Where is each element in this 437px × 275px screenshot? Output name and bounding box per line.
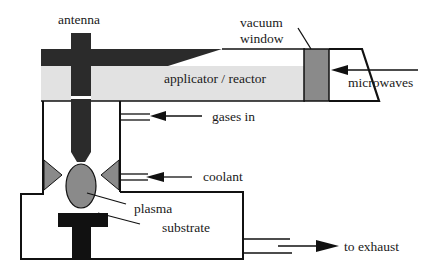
coolant-block-right <box>101 160 119 190</box>
gases-arrow-head <box>150 111 166 121</box>
applicator-label: applicator / reactor <box>164 72 266 86</box>
substrate-plate <box>58 213 108 227</box>
plasma-ball <box>66 164 96 208</box>
antenna-upper <box>71 33 91 96</box>
microwaves-label: microwaves <box>348 76 413 90</box>
substrate-stem <box>72 227 91 260</box>
vacuum-window-label-line1: vacuum <box>240 16 283 30</box>
reactor-diagram <box>0 0 437 275</box>
coolant-label: coolant <box>203 170 243 184</box>
antenna-lower <box>71 99 91 162</box>
exhaust-arrow-head <box>316 240 339 252</box>
gases-in-label: gases in <box>212 110 255 124</box>
plasma-label: plasma <box>134 202 172 216</box>
substrate-label: substrate <box>162 221 210 235</box>
top-dark-bar <box>41 49 222 66</box>
antenna-label: antenna <box>58 13 100 27</box>
vacuum-window-pointer <box>298 28 311 49</box>
coolant-block-left <box>44 160 62 190</box>
exhaust-label: to exhaust <box>344 240 399 254</box>
microwaves-arrow-head <box>331 65 348 75</box>
vacuum-window <box>304 49 329 101</box>
antenna-gap <box>71 96 91 99</box>
coolant-arrow-head <box>146 172 164 182</box>
vacuum-window-label-line2: window <box>240 32 284 46</box>
